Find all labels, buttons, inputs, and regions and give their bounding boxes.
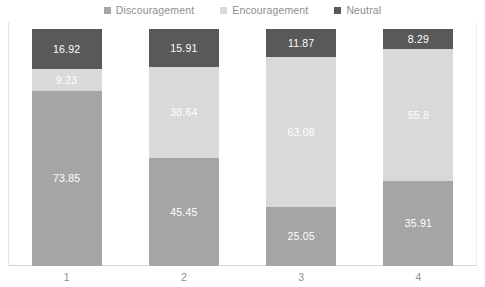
bar-segment-encouragement[interactable]: 9.23 bbox=[32, 69, 102, 91]
bar-column-2: 15.91 38.64 45.45 bbox=[125, 22, 242, 266]
bar-column-4: 8.29 55.8 35.91 bbox=[360, 22, 477, 266]
segment-value-label: 55.8 bbox=[408, 110, 429, 121]
segment-value-label: 16.92 bbox=[53, 44, 80, 55]
stacked-bar-chart: Discouragement Encouragement Neutral 16.… bbox=[0, 0, 485, 287]
bar-column-1: 16.92 9.23 73.85 bbox=[8, 22, 125, 266]
category-tick-2: 2 bbox=[125, 268, 242, 286]
bar-segment-discouragement[interactable]: 45.45 bbox=[149, 158, 219, 266]
bar-segment-encouragement[interactable]: 55.8 bbox=[383, 49, 453, 181]
bar-segment-neutral[interactable]: 11.87 bbox=[266, 29, 336, 57]
legend-label: Encouragement bbox=[232, 5, 308, 16]
segment-value-label: 45.45 bbox=[170, 207, 197, 218]
chart-legend: Discouragement Encouragement Neutral bbox=[0, 2, 485, 18]
segment-value-label: 63.08 bbox=[287, 127, 314, 138]
category-tick-3: 3 bbox=[243, 268, 360, 286]
segment-value-label: 35.91 bbox=[405, 218, 432, 229]
bar-segment-neutral[interactable]: 8.29 bbox=[383, 29, 453, 49]
category-tick-1: 1 bbox=[8, 268, 125, 286]
segment-value-label: 11.87 bbox=[288, 38, 315, 49]
bar-column-3: 11.87 63.08 25.05 bbox=[243, 22, 360, 266]
category-tick-4: 4 bbox=[360, 268, 477, 286]
legend-label: Neutral bbox=[346, 5, 381, 16]
legend-item-discouragement[interactable]: Discouragement bbox=[104, 5, 195, 16]
bar-segment-discouragement[interactable]: 35.91 bbox=[383, 181, 453, 266]
bar-stack: 15.91 38.64 45.45 bbox=[149, 29, 219, 266]
segment-value-label: 73.85 bbox=[53, 173, 80, 184]
segment-value-label: 8.29 bbox=[408, 34, 429, 45]
square-marker-icon bbox=[104, 7, 111, 14]
segment-value-label: 38.64 bbox=[170, 107, 197, 118]
bar-stack: 8.29 55.8 35.91 bbox=[383, 29, 453, 266]
bar-stack: 16.92 9.23 73.85 bbox=[32, 29, 102, 266]
legend-label: Discouragement bbox=[116, 5, 195, 16]
square-marker-icon bbox=[334, 7, 341, 14]
bar-segment-encouragement[interactable]: 38.64 bbox=[149, 67, 219, 158]
category-tick-label: 3 bbox=[298, 272, 304, 283]
category-tick-label: 4 bbox=[415, 272, 421, 283]
bar-stack: 11.87 63.08 25.05 bbox=[266, 29, 336, 266]
legend-item-neutral[interactable]: Neutral bbox=[334, 5, 381, 16]
segment-value-label: 15.91 bbox=[170, 43, 197, 54]
bar-segment-discouragement[interactable]: 73.85 bbox=[32, 91, 102, 266]
bar-series-container: 16.92 9.23 73.85 15.91 38.64 45.45 bbox=[8, 22, 477, 266]
category-tick-label: 2 bbox=[181, 272, 187, 283]
category-tick-label: 1 bbox=[64, 272, 70, 283]
segment-value-label: 9.23 bbox=[56, 75, 77, 86]
bar-segment-neutral[interactable]: 16.92 bbox=[32, 29, 102, 69]
segment-value-label: 25.05 bbox=[287, 231, 314, 242]
bar-segment-encouragement[interactable]: 63.08 bbox=[266, 57, 336, 206]
bar-segment-neutral[interactable]: 15.91 bbox=[149, 29, 219, 67]
legend-item-encouragement[interactable]: Encouragement bbox=[220, 5, 308, 16]
category-axis-labels: 1 2 3 4 bbox=[8, 268, 477, 286]
bar-segment-discouragement[interactable]: 25.05 bbox=[266, 207, 336, 266]
square-marker-icon bbox=[220, 7, 227, 14]
